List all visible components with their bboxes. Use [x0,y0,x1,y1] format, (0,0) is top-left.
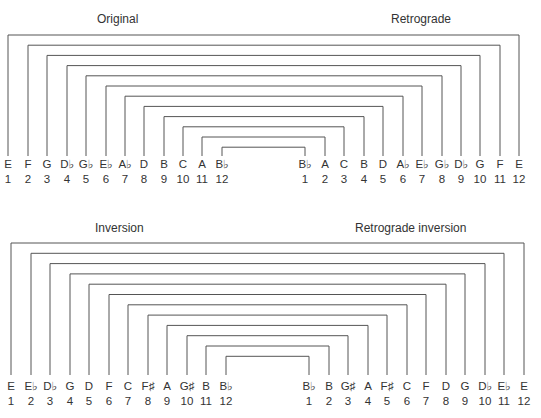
bracket-line [67,66,461,156]
order-number: 8 [145,395,151,407]
note-label: E [4,158,12,170]
order-number: 11 [494,173,506,185]
order-number: 5 [384,395,390,407]
note-label: D♭ [60,158,74,170]
order-number: 7 [122,173,128,185]
bracket-line [86,76,442,156]
note-label: F♯ [381,380,394,392]
bracket-line [226,356,309,375]
bracket-line [28,45,500,156]
bracket-line [202,137,325,156]
order-number: 1 [302,173,308,185]
bracket-line [144,106,383,156]
note-label: B [325,380,333,392]
order-number: 9 [462,395,468,407]
bracket-line [50,264,485,375]
panel-bottom: E1B♭1E♭2B2D♭3G♯3G4A4D5F♯5F6C6C7F7F♯8D8A9… [7,243,530,407]
note-label: G [66,380,75,392]
note-label: G [461,380,470,392]
note-label: C [340,158,348,170]
note-label: F [24,158,31,170]
order-number: 11 [200,395,212,407]
order-number: 7 [423,395,429,407]
bracket-line [109,295,426,376]
order-number: 10 [474,173,487,185]
bracket-line [206,346,329,375]
note-label: C [403,380,411,392]
note-label: D [140,158,148,170]
bracket-line [167,325,368,375]
order-number: 3 [44,173,50,185]
note-label: D♭ [454,158,468,170]
order-number: 9 [164,395,170,407]
order-number: 11 [498,395,510,407]
note-label: C [124,380,132,392]
order-number: 8 [443,395,449,407]
order-number: 12 [216,173,229,185]
note-label: G [476,158,485,170]
note-label: A♭ [118,158,131,170]
order-number: 12 [513,173,526,185]
note-label: A [364,380,372,392]
note-label: A♭ [396,158,409,170]
note-label: F [422,380,429,392]
order-number: 1 [5,173,11,185]
order-number: 9 [161,173,167,185]
note-label: E♭ [24,380,37,392]
order-number: 4 [67,395,74,407]
order-number: 2 [326,395,332,407]
note-label: E [515,158,523,170]
bracket-line [70,274,465,375]
order-number: 2 [28,395,34,407]
order-number: 3 [47,395,53,407]
note-label: B♭ [215,158,228,170]
order-number: 10 [177,173,190,185]
note-label: G♭ [79,158,93,170]
bracket-line [187,336,348,375]
order-number: 6 [404,395,410,407]
bracket-line [183,127,344,156]
note-label: B [202,380,210,392]
note-label: A [198,158,206,170]
order-number: 12 [518,395,531,407]
note-label: B [160,158,168,170]
bracket-line [222,147,305,156]
note-label: G [43,158,52,170]
bracket-line [148,315,387,375]
note-label: G♯ [341,380,356,392]
bracket-line [89,284,446,375]
note-label: D [442,380,450,392]
order-number: 6 [103,173,109,185]
order-number: 3 [345,395,351,407]
order-number: 9 [458,173,464,185]
order-number: 10 [479,395,492,407]
order-number: 5 [86,395,92,407]
order-number: 11 [196,173,208,185]
note-label: F [105,380,112,392]
note-label: E [7,380,15,392]
note-label: E♭ [497,380,510,392]
tone-row-diagram: Original Retrograde Inversion Retrograde… [0,0,541,418]
note-label: E [520,380,528,392]
note-label: A [163,380,171,392]
order-number: 6 [400,173,406,185]
order-number: 2 [322,173,328,185]
panel-top: E1B♭1F2A2G3C3D♭4B4G♭5D5E♭6A♭6A♭7E♭7D8G♭8… [4,35,525,185]
order-number: 5 [380,173,386,185]
order-number: 1 [8,395,14,407]
bracket-line [164,117,364,156]
note-label: B♭ [219,380,232,392]
order-number: 3 [341,173,347,185]
order-number: 8 [141,173,147,185]
order-number: 1 [306,395,312,407]
bracket-diagram: E1B♭1F2A2G3C3D♭4B4G♭5D5E♭6A♭6A♭7E♭7D8G♭8… [0,0,541,418]
order-number: 8 [439,173,445,185]
note-label: B♭ [302,380,315,392]
order-number: 10 [181,395,194,407]
order-number: 2 [25,173,31,185]
note-label: D♭ [43,380,57,392]
note-label: A [321,158,329,170]
note-label: E♭ [415,158,428,170]
bracket-line [47,55,480,156]
note-label: F♯ [142,380,155,392]
